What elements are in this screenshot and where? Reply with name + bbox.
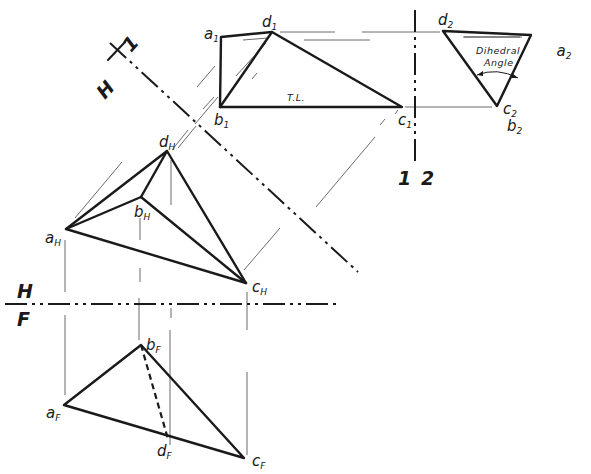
label-bH: bH [134,203,151,222]
ref-label-h-on-hf: H [17,280,33,302]
reference-lines [5,10,415,304]
dihedral-angle-drawing: 1 H H F 1 2 T.L. a1 d1 b1 c1 Dihedral An… [0,0,591,474]
ref-label-2-on-12: 2 [421,167,434,189]
label-bF: bF [146,336,162,355]
label-b1: b1 [214,111,229,130]
angle-label: Angle [483,57,514,68]
ref-label-h-on-h1: H [92,76,119,103]
ref-label-f-on-hf: F [17,308,30,330]
label-c1: c1 [398,111,412,130]
ref-label-1-on-h1: 1 [118,31,143,56]
label-d1: d1 [262,13,277,32]
reference-labels: 1 H H F 1 2 [17,31,434,330]
label-cH: cH [252,278,267,297]
label-d2: d2 [438,11,454,30]
label-cF: cF [252,452,266,471]
label-b2: b2 [507,117,523,136]
dihedral-label: Dihedral [476,45,520,56]
label-aH: aH [45,229,61,248]
top-view: dH bH aH cH [45,133,267,297]
front-view: bF aF dF cF [46,336,266,471]
label-aF: aF [46,404,61,423]
true-length-label: T.L. [287,92,305,103]
label-a1: a1 [204,25,219,44]
auxiliary-view-1: T.L. a1 d1 b1 c1 [204,13,412,130]
label-a2: a2 [557,42,572,61]
ref-label-1-on-12: 1 [398,167,411,189]
label-dH: dH [159,133,176,152]
reference-line-h-1 [110,43,358,272]
auxiliary-view-2: Dihedral Angle d2 a2 c2 b2 [438,11,572,136]
